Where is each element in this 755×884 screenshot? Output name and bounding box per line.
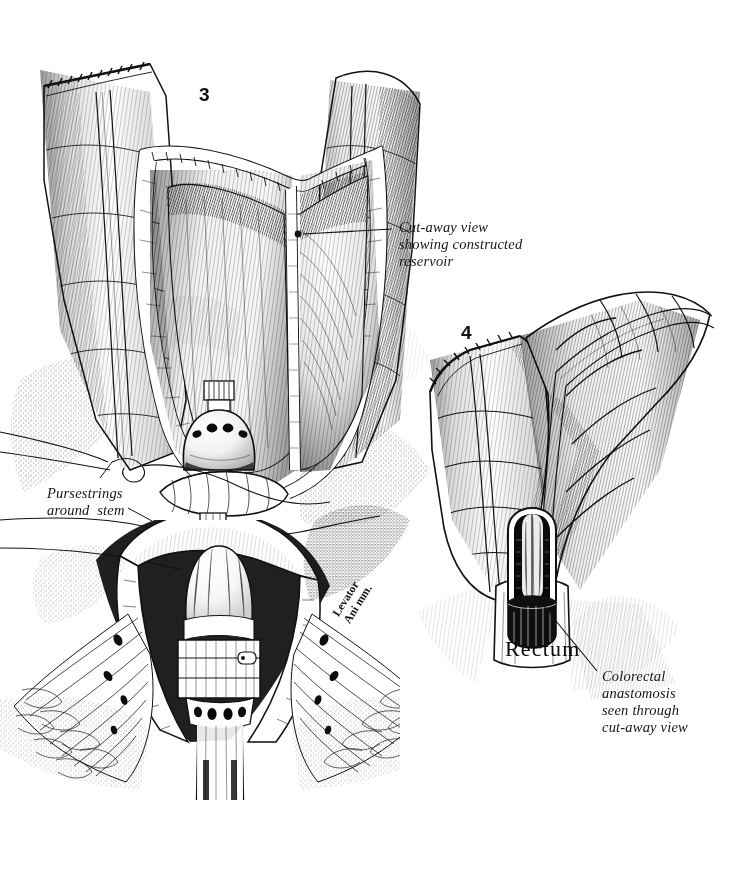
label-cutaway-reservoir: Cut-away view showing constructed reserv…	[399, 219, 522, 270]
illustration-plate: 3 4 Cut-away view showing constructed re…	[0, 0, 755, 884]
figure-number-4: 4	[461, 322, 472, 344]
label-colorectal-anastomosis: Colorectal anastomosis seen through cut-…	[602, 668, 688, 736]
label-pursestrings: Pursestrings around stem	[47, 485, 125, 519]
figure-3-group	[0, 60, 440, 830]
figure-number-3: 3	[199, 84, 210, 106]
surgical-illustration-artwork	[0, 0, 755, 884]
label-rectum: Rectum	[505, 636, 581, 662]
